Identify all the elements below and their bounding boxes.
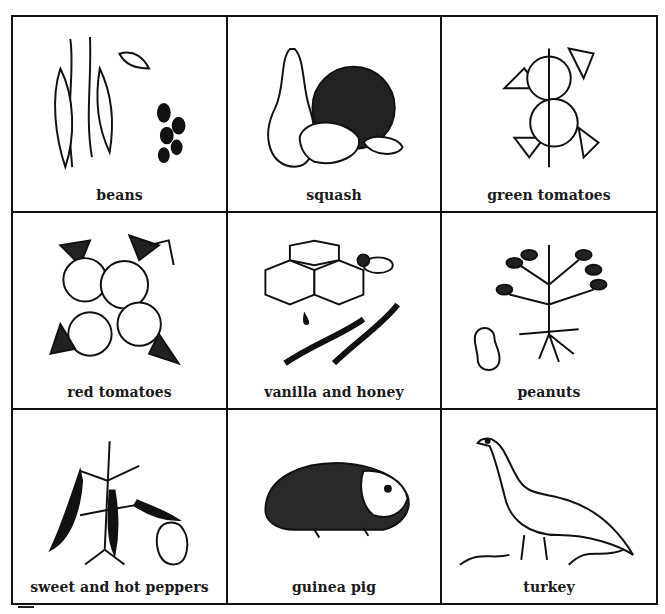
cell-beans: beans [13,17,228,213]
green-tomatoes-icon [450,25,648,181]
vanilla-honey-icon [236,221,432,378]
cell-label: squash [228,187,440,203]
cell-label: guinea pig [228,579,440,595]
cell-vanilla-honey: vanilla and honey [228,213,442,410]
page-edge-mark [18,606,34,614]
cell-label: beans [13,187,226,203]
cell-label: red tomatoes [13,384,226,400]
cell-peppers: sweet and hot peppers [13,410,228,603]
beans-icon [21,25,218,181]
cell-guinea-pig: guinea pig [228,410,442,603]
cell-label: turkey [442,579,656,595]
red-tomatoes-icon [21,221,218,378]
cell-label: green tomatoes [442,187,656,203]
food-picture-grid: beans squash green tomatoes [11,15,658,605]
squash-icon [236,25,432,181]
cell-label: sweet and hot peppers [13,579,226,595]
turkey-icon [450,418,648,573]
cell-squash: squash [228,17,442,213]
cell-label: peanuts [442,384,656,400]
cell-red-tomatoes: red tomatoes [13,213,228,410]
peppers-icon [21,418,218,573]
cell-peanuts: peanuts [442,213,656,410]
cell-turkey: turkey [442,410,656,603]
guinea-pig-icon [236,418,432,573]
peanuts-icon [450,221,648,378]
cell-green-tomatoes: green tomatoes [442,17,656,213]
cell-label: vanilla and honey [228,384,440,400]
